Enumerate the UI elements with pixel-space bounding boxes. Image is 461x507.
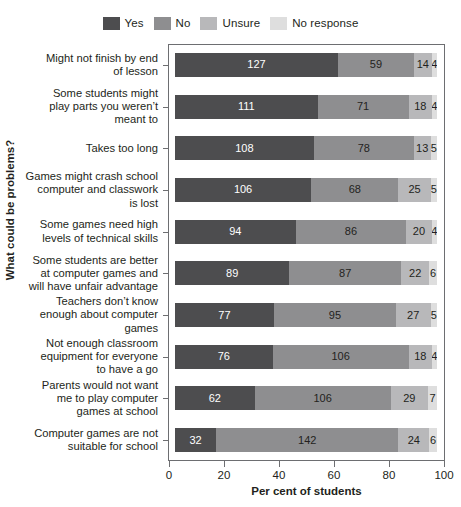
bar-segment-yes: 77 <box>175 303 274 327</box>
bar-segment-unsure: 18 <box>409 345 432 369</box>
bar-segment-value: 106 <box>331 351 349 362</box>
bar-segment-value: 108 <box>235 143 253 154</box>
category-label: Might not finish by endof lesson <box>20 52 158 78</box>
legend-swatch-icon <box>154 17 171 30</box>
category-label-line: of lesson <box>20 65 158 78</box>
category-label-line: games <box>20 322 158 335</box>
x-axis-tick-label: 100 <box>424 469 461 481</box>
category-label: Teachers don’t knowenough about computer… <box>20 295 158 335</box>
bar-segment-value: 68 <box>349 184 361 195</box>
category-axis-labels: Might not finish by endof lessonSome stu… <box>20 44 164 461</box>
bar-segment-unsure: 20 <box>406 220 432 244</box>
bar-segment-value: 142 <box>298 435 316 446</box>
category-axis-tick <box>163 440 168 441</box>
category-label-line: Some games need high <box>20 218 158 231</box>
category-label-line: is lost <box>20 197 158 210</box>
bar-segment-value: 127 <box>247 59 265 70</box>
bar-segment-no: 59 <box>338 53 414 77</box>
category-label-line: Computer games are not <box>20 427 158 440</box>
bar-segment-no: 71 <box>318 95 409 119</box>
bar-segment-value: 32 <box>189 435 201 446</box>
legend-item-label: No response <box>292 17 358 29</box>
bar-segment-yes: 32 <box>175 428 216 452</box>
bar-segment-value: 5 <box>431 184 437 195</box>
legend-swatch-icon <box>200 17 217 30</box>
bar-segment-value: 20 <box>413 226 425 237</box>
bar-segment-value: 7 <box>429 393 435 404</box>
bar-row: 8987226 <box>175 261 437 285</box>
bar-segment-unsure: 18 <box>409 95 432 119</box>
bar-segment-unsure: 29 <box>391 386 428 410</box>
bar-segment-value: 4 <box>432 101 437 112</box>
category-axis-tick <box>163 107 168 108</box>
category-label-line: computer and classwork <box>20 183 158 196</box>
bar-segment-no-response: 6 <box>429 428 437 452</box>
bar-segment-yes: 108 <box>175 136 314 160</box>
bar-segment-value: 59 <box>370 59 382 70</box>
bar-row: 7795275 <box>175 303 437 327</box>
bar-segment-unsure: 24 <box>398 428 429 452</box>
bar-segment-value: 25 <box>408 184 420 195</box>
bar-segment-no: 95 <box>274 303 396 327</box>
bar-segment-no: 106 <box>255 386 391 410</box>
category-label-line: Not enough classroom <box>20 337 158 350</box>
bar-segment-yes: 94 <box>175 220 296 244</box>
bar-row: 10668255 <box>175 178 437 202</box>
bar-segment-value: 29 <box>403 393 415 404</box>
category-axis-tick <box>163 315 168 316</box>
category-label: Games might crash schoolcomputer and cla… <box>20 170 158 210</box>
x-axis-tick-label: 40 <box>259 469 299 481</box>
bar-segment-value: 111 <box>238 101 255 112</box>
category-label: Some students mightplay parts you weren’… <box>20 87 158 127</box>
legend-item-no-response: No response <box>270 17 358 30</box>
legend-swatch-icon <box>103 17 120 30</box>
bar-segment-value: 24 <box>408 435 420 446</box>
category-label-line: at computer games and <box>20 267 158 280</box>
bar-row: 12759144 <box>175 53 437 77</box>
legend-item-unsure: Unsure <box>200 17 260 30</box>
bar-segment-no-response: 4 <box>432 53 437 77</box>
category-label-line: Some students might <box>20 87 158 100</box>
category-label-line: enough about computer <box>20 308 158 321</box>
category-axis-tick <box>163 357 168 358</box>
x-axis-tick-label: 0 <box>149 469 189 481</box>
chart-legend: YesNoUnsureNo response <box>0 10 461 36</box>
category-axis-tick <box>163 232 168 233</box>
bar-segment-unsure: 27 <box>396 303 431 327</box>
bar-segment-value: 18 <box>414 351 426 362</box>
legend-item-label: Unsure <box>222 17 260 29</box>
bar-segment-value: 4 <box>432 226 437 237</box>
category-label-line: Teachers don’t know <box>20 295 158 308</box>
bar-segment-unsure: 14 <box>414 53 432 77</box>
bar-segment-value: 18 <box>414 101 426 112</box>
category-axis-tick <box>163 65 168 66</box>
bar-segment-value: 4 <box>432 351 437 362</box>
y-axis-title: What could be problems? <box>0 0 20 420</box>
bar-segment-unsure: 22 <box>401 261 429 285</box>
bar-segment-unsure: 13 <box>414 136 431 160</box>
x-axis-tick-label: 80 <box>369 469 409 481</box>
category-label-line: levels of technical skills <box>20 232 158 245</box>
category-label-line: will have unfair advantage <box>20 280 158 293</box>
category-label: Not enough classroomequipment for everyo… <box>20 337 158 377</box>
bar-segment-value: 14 <box>417 59 429 70</box>
category-label-line: to have a go <box>20 363 158 376</box>
x-axis: Per cent of students 020406080100 <box>168 461 445 507</box>
bar-segment-value: 22 <box>409 268 421 279</box>
bar-segment-value: 94 <box>229 226 241 237</box>
x-axis-tick <box>389 461 390 467</box>
bar-row: 76106184 <box>175 345 437 369</box>
category-label-line: games at school <box>20 405 158 418</box>
bar-segment-yes: 62 <box>175 386 255 410</box>
bar-segment-no-response: 7 <box>428 386 437 410</box>
category-label-line: equipment for everyone <box>20 350 158 363</box>
category-axis-tick <box>163 190 168 191</box>
legend-item-label: No <box>176 17 191 29</box>
legend-item-yes: Yes <box>103 17 144 30</box>
bar-row: 11171184 <box>175 95 437 119</box>
bar-segment-no: 78 <box>314 136 414 160</box>
x-axis-tick <box>444 461 445 467</box>
category-label-line: suitable for school <box>20 440 158 453</box>
bar-segment-yes: 76 <box>175 345 273 369</box>
bar-segment-value: 6 <box>430 435 436 446</box>
